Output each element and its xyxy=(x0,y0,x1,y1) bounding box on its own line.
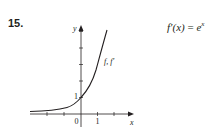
y-tick-label-1: 1 xyxy=(74,92,78,101)
graph: y x 1 1 0 f, f′ xyxy=(0,0,221,131)
x-axis-arrow-icon xyxy=(128,112,134,117)
y-axis xyxy=(79,25,84,127)
curve-label: f, f′ xyxy=(104,57,114,66)
y-axis-arrow-icon xyxy=(79,25,84,31)
x-axis-label: x xyxy=(129,118,134,127)
y-axis-label: y xyxy=(72,24,77,33)
exp-curve xyxy=(30,30,107,112)
origin-label: 0 xyxy=(75,117,79,126)
x-tick-label-1: 1 xyxy=(96,117,100,126)
x-axis xyxy=(30,112,134,117)
